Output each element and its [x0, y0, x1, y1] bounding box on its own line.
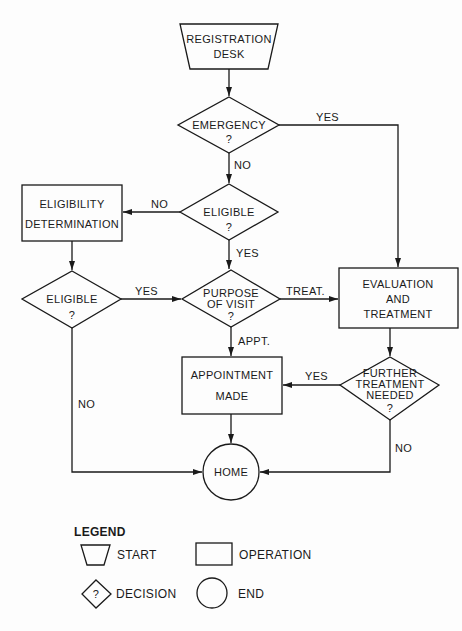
- legend-decision-label: DECISION: [116, 587, 176, 601]
- eligible-left-question: ?: [69, 309, 75, 321]
- legend-decision-symbol: ?: [93, 588, 99, 600]
- edge-label-eligible-left-no: NO: [78, 398, 95, 410]
- eligibility-label-2: DETERMINATION: [25, 218, 119, 230]
- operation-rect-icon: [182, 357, 282, 414]
- evaluation-label-2: AND: [386, 293, 410, 305]
- node-evaluation-treatment: EVALUATION AND TREATMENT: [339, 268, 458, 328]
- edge-label-purpose-treat: TREAT.: [286, 285, 325, 297]
- registration-label-2: DESK: [213, 48, 245, 60]
- edge-label-eligible-center-yes: YES: [236, 247, 259, 259]
- edge-label-emergency-no: NO: [234, 159, 251, 171]
- node-home: HOME: [203, 444, 259, 500]
- edge-label-further-no: NO: [395, 442, 412, 454]
- edge-emergency-yes: [279, 125, 398, 267]
- operation-rect-icon: [22, 185, 122, 241]
- edge-further-no: [260, 420, 390, 472]
- eligibility-label-1: ELIGIBILITY: [39, 198, 104, 210]
- node-eligibility-determination: ELIGIBILITY DETERMINATION: [22, 185, 122, 241]
- node-appointment-made: APPOINTMENT MADE: [182, 357, 282, 414]
- evaluation-label-1: EVALUATION: [362, 278, 433, 290]
- node-purpose-of-visit: PURPOSE OF VISIT ?: [182, 270, 280, 327]
- eligible-center-question: ?: [226, 221, 232, 233]
- purpose-question: ?: [228, 310, 234, 322]
- registration-label-1: REGISTRATION: [186, 33, 271, 45]
- eligible-left-label: ELIGIBLE: [46, 293, 97, 305]
- legend-end-icon: [197, 578, 227, 608]
- appointment-label-2: MADE: [216, 390, 249, 402]
- purpose-label-2: OF VISIT: [207, 298, 255, 310]
- legend-start-label: START: [117, 548, 157, 562]
- node-emergency: EMERGENCY ?: [178, 97, 279, 153]
- eligible-center-label: ELIGIBLE: [203, 206, 254, 218]
- legend: LEGEND START OPERATION ? DECISION END: [74, 525, 312, 608]
- node-eligible-left: ELIGIBLE ?: [22, 271, 121, 328]
- edge-label-further-yes: YES: [305, 370, 328, 382]
- edge-label-eligible-center-no: NO: [151, 198, 168, 210]
- legend-operation-label: OPERATION: [239, 548, 312, 562]
- edge-label-eligible-left-yes: YES: [135, 285, 158, 297]
- appointment-label-1: APPOINTMENT: [191, 369, 274, 381]
- start-trapezoid-icon: [180, 24, 278, 69]
- further-question: ?: [387, 402, 393, 414]
- node-further-treatment: FURTHER TREATMENT NEEDED ?: [340, 357, 439, 420]
- emergency-question: ?: [226, 133, 232, 145]
- flowchart: REGISTRATION DESK EMERGENCY ? YES NO ELI…: [0, 0, 462, 631]
- legend-start-icon: [81, 545, 110, 565]
- edge-label-purpose-appt: APPT.: [238, 335, 270, 347]
- node-registration-desk: REGISTRATION DESK: [180, 24, 278, 69]
- evaluation-label-3: TREATMENT: [363, 308, 432, 320]
- legend-end-label: END: [238, 587, 264, 601]
- legend-title: LEGEND: [74, 525, 126, 539]
- legend-operation-icon: [196, 543, 232, 565]
- home-label: HOME: [214, 466, 248, 478]
- edge-label-emergency-yes: YES: [316, 111, 339, 123]
- emergency-label: EMERGENCY: [192, 119, 266, 131]
- further-label-3: NEEDED: [366, 389, 414, 401]
- node-eligible-center: ELIGIBLE ?: [180, 184, 278, 240]
